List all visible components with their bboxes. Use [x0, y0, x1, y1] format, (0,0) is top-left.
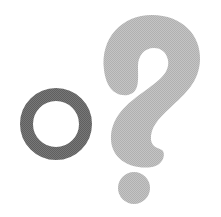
- graphic-svg: [0, 0, 221, 217]
- question-mark-icon: [104, 15, 201, 204]
- graphic-canvas: [0, 0, 221, 217]
- question-mark-dot: [118, 172, 150, 204]
- question-mark-stroke: [104, 15, 201, 168]
- circle-outline-icon: [27, 95, 86, 154]
